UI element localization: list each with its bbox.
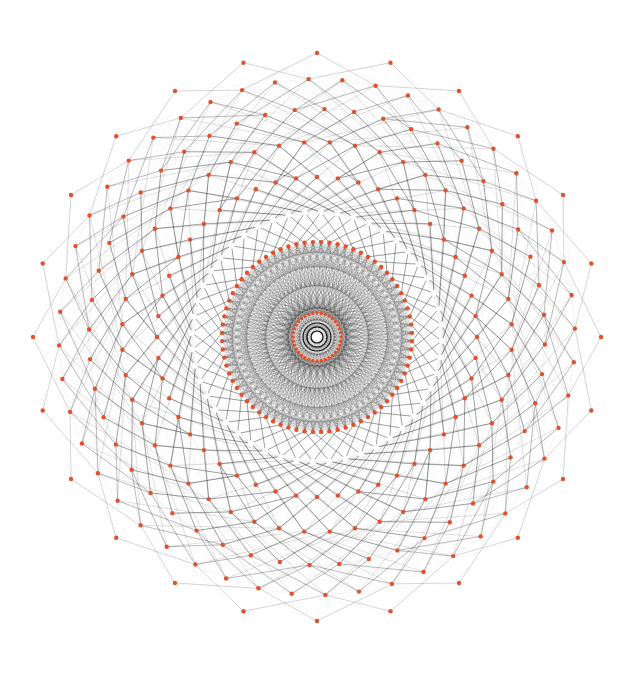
edge — [446, 417, 456, 484]
edge — [204, 146, 279, 224]
ring-7-node — [151, 135, 155, 139]
edge — [98, 473, 175, 583]
ring-7-node — [569, 293, 573, 297]
ring-5-node — [229, 510, 233, 514]
edge — [123, 217, 132, 275]
ring-2-node — [319, 430, 323, 434]
ring-7-node — [60, 377, 64, 381]
ring-4-node — [376, 483, 380, 487]
ring-3-node — [270, 217, 276, 223]
edge — [304, 142, 383, 230]
ring-6-node — [93, 387, 97, 391]
ring-5-node — [443, 481, 447, 485]
edge — [90, 91, 176, 215]
ring-5-node — [353, 526, 357, 530]
edge — [408, 96, 464, 209]
ring-6-node — [235, 121, 239, 125]
edge — [188, 462, 313, 484]
ring-7-node — [193, 562, 197, 566]
ring-4-node — [336, 493, 340, 497]
ring-1-node — [293, 343, 297, 347]
ring-8-node — [114, 134, 118, 138]
edge — [98, 473, 116, 538]
edge — [304, 112, 354, 142]
edge — [251, 443, 330, 531]
ring-3-node — [189, 330, 195, 336]
ring-1-node — [336, 323, 340, 327]
ring-5-node — [120, 322, 124, 326]
ring-5-node — [252, 150, 256, 154]
edge — [439, 190, 446, 308]
ring-7-node — [208, 100, 212, 104]
edge — [403, 487, 527, 512]
edge — [355, 528, 481, 536]
ring-3-node — [326, 458, 332, 464]
ring-5-node — [490, 421, 494, 425]
ring-8-node — [516, 134, 520, 138]
ring-3-node — [262, 448, 268, 454]
ring-3-node — [405, 249, 411, 255]
ring-7-node — [306, 77, 310, 81]
edge — [273, 220, 329, 243]
ring-7-node — [138, 523, 142, 527]
ring-3-node — [411, 413, 417, 419]
ring-5-node — [252, 520, 256, 524]
edge — [195, 555, 250, 564]
edge — [254, 522, 359, 592]
ring-4-node — [376, 187, 380, 191]
edge — [43, 264, 59, 346]
ring-6-node — [88, 357, 92, 361]
ring-6-node — [322, 107, 326, 111]
ring-4-node — [442, 432, 446, 436]
edge — [459, 513, 505, 583]
ring-7-node — [436, 107, 440, 111]
edge — [170, 208, 288, 215]
edge — [397, 445, 479, 475]
edge — [380, 143, 438, 152]
ring-5-node — [509, 322, 513, 326]
edge — [403, 162, 536, 201]
edge — [453, 538, 518, 556]
edge — [292, 512, 404, 594]
edge — [563, 329, 575, 479]
edge — [483, 181, 564, 262]
edge — [244, 63, 309, 79]
edge — [141, 525, 244, 611]
ring-3-node — [350, 214, 356, 220]
ring-6-node — [352, 110, 356, 114]
edge — [107, 136, 209, 187]
ring-4-node — [395, 196, 399, 200]
ring-2-node — [231, 291, 235, 295]
ring-4-node — [217, 208, 221, 212]
ring-2-node — [278, 423, 282, 427]
ring-3-node — [431, 290, 437, 296]
ring-6-node — [435, 141, 439, 145]
edge — [71, 118, 181, 195]
ring-4-node — [336, 176, 340, 180]
ring-1-node — [303, 356, 307, 360]
ring-3-node — [393, 237, 399, 243]
edge — [492, 251, 545, 345]
edge — [178, 417, 208, 499]
ring-3-node — [399, 425, 405, 431]
ring-5-node — [401, 160, 405, 164]
edge — [190, 152, 254, 239]
ring-4-node — [412, 208, 416, 212]
edge — [142, 423, 167, 547]
ring-6-node — [448, 520, 452, 524]
edge — [116, 118, 181, 136]
edge — [309, 63, 391, 79]
ring-2-node — [335, 242, 339, 246]
ring-3-node — [437, 354, 443, 360]
ring-4-node — [475, 335, 479, 339]
ring-8-node — [561, 477, 565, 481]
edge — [116, 538, 195, 565]
ring-2-node — [379, 405, 383, 409]
ring-7-node — [63, 276, 67, 280]
ring-2-node — [311, 240, 315, 244]
edge — [309, 79, 459, 91]
ring-3-node — [208, 268, 214, 274]
edge — [383, 110, 438, 119]
ring-5-node — [130, 398, 134, 402]
edge — [244, 595, 326, 611]
